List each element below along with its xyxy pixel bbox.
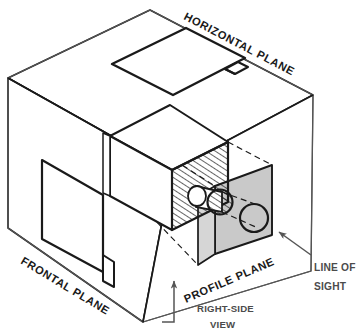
label-line-of-sight-line2: SIGHT <box>314 281 347 292</box>
profile-view-circle <box>240 204 268 232</box>
cylinder-front-circle <box>208 190 233 215</box>
projection-diagram: HORIZONTAL PLANE FRONTAL PLANE PROFILE P… <box>0 0 356 329</box>
front-view-notch <box>103 255 114 287</box>
label-right-side-view-line2: VIEW <box>210 319 236 329</box>
block-left-sliver <box>103 133 110 196</box>
label-right-side-view-line1: RIGHT-SIDE <box>197 303 254 314</box>
diagram-canvas: HORIZONTAL PLANE FRONTAL PLANE PROFILE P… <box>0 0 356 329</box>
cylinder-back-circle <box>188 186 206 206</box>
label-line-of-sight-line1: LINE OF <box>314 262 356 273</box>
